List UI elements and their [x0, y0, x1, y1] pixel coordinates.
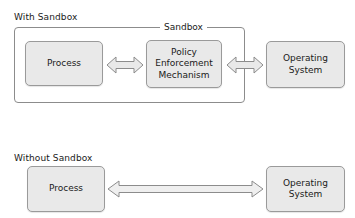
node-process-label: Process [47, 58, 81, 70]
without-sandbox-section: Without Sandbox Process Operating System [0, 112, 355, 218]
node-operating-system-label: Operating System [283, 178, 328, 201]
node-operating-system-label: Operating System [283, 53, 328, 76]
double-arrow-icon [107, 54, 143, 76]
node-operating-system[interactable]: Operating System [266, 166, 345, 212]
with-sandbox-section: With Sandbox Sandbox Process Policy Enfo… [0, 0, 355, 112]
node-process[interactable]: Process [27, 166, 105, 212]
node-process[interactable]: Process [25, 41, 103, 86]
double-arrow-icon [108, 178, 263, 200]
node-process-label: Process [49, 183, 83, 195]
connector-process-to-pem [107, 54, 143, 76]
double-arrow-icon [227, 54, 263, 76]
node-policy-enforcement-mechanism-label: Policy Enforcement Mechanism [155, 47, 213, 82]
sandbox-container-label: Sandbox [160, 22, 207, 33]
without-sandbox-caption: Without Sandbox [14, 153, 92, 164]
node-policy-enforcement-mechanism[interactable]: Policy Enforcement Mechanism [146, 40, 222, 88]
connector-process-to-os [108, 178, 263, 200]
connector-pem-to-os [227, 54, 263, 76]
with-sandbox-caption: With Sandbox [14, 12, 77, 23]
node-operating-system[interactable]: Operating System [266, 41, 345, 88]
